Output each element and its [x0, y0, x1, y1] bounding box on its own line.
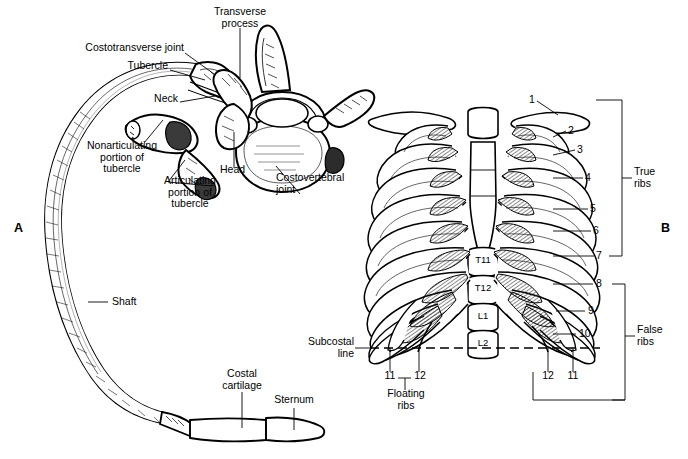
bracket-label-true-ribs: True ribs: [634, 166, 674, 189]
label-transverse-process: Transverse process: [196, 6, 284, 29]
rib-number-10: 10: [579, 328, 591, 339]
true-ribs-bracket: [609, 100, 632, 256]
label-nonarticulating-portion-of-tubercle: Nonarticulating portion of tubercle: [74, 140, 170, 175]
panel-a-artwork: [45, 26, 374, 442]
floating-rib-number-11-left: 11: [378, 370, 402, 382]
label-articulating-portion-of-tubercle: Articulating portion of tubercle: [148, 175, 232, 210]
vertebra-label-l1: L1: [464, 311, 502, 321]
floating-rib-number-12-left: 12: [408, 370, 432, 382]
false-ribs-bracket: [612, 284, 635, 400]
bracket-label-false-ribs: False ribs: [637, 324, 679, 347]
figure-container: A Transverse process Costotransverse joi…: [0, 0, 688, 459]
label-costotransverse-joint: Costotransverse joint: [62, 42, 184, 54]
rib-number-6: 6: [593, 225, 599, 236]
panel-b-letter: B: [661, 221, 670, 235]
label-neck: Neck: [118, 93, 178, 105]
rib-number-9: 9: [588, 305, 594, 316]
floating-rib-number-11-right: 11: [561, 370, 585, 382]
label-sternum: Sternum: [266, 394, 322, 406]
rib-number-5: 5: [590, 203, 596, 214]
vertebra-label-l2: L2: [464, 338, 502, 348]
ribcage-left: [364, 125, 470, 364]
vertebra-label-t12: T12: [464, 283, 502, 293]
label-floating-ribs: Floating ribs: [376, 388, 436, 411]
rib-number-1: 1: [529, 94, 535, 105]
label-subcostal-line: Subcostal line: [286, 336, 354, 359]
rib-number-2: 2: [568, 125, 574, 136]
panel-b-artwork: [364, 108, 600, 364]
rib-number-7: 7: [596, 250, 602, 261]
panel-a-letter: A: [14, 221, 23, 235]
manubrium: [468, 108, 498, 139]
label-costal-cartilage: Costal cartilage: [212, 368, 272, 391]
sternum-body-b: [470, 142, 496, 262]
floating-rib-number-12-right: 12: [536, 370, 560, 382]
label-tubercle: Tubercle: [96, 60, 168, 72]
figure-caption-bar: FIGURE 6–4: [0, 432, 688, 459]
vertebra-label-t11: T11: [464, 255, 502, 265]
rib-number-8: 8: [596, 278, 602, 289]
rib-number-3: 3: [577, 144, 583, 155]
label-shaft: Shaft: [112, 296, 137, 308]
rib-number-4: 4: [585, 172, 591, 183]
vertebral-foramen: [256, 99, 308, 127]
label-costovertebral-joint: Costovertebral joint: [276, 172, 352, 195]
costal-facet: [325, 148, 344, 174]
label-head: Head: [220, 164, 245, 176]
